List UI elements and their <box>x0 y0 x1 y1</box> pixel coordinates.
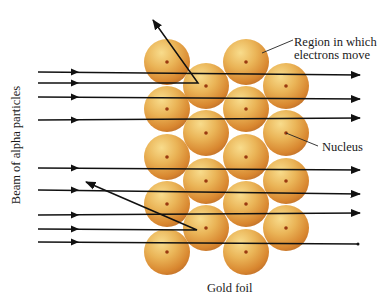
gold-atom <box>183 110 229 156</box>
nucleus-dot <box>165 202 169 206</box>
gold-atom <box>144 134 190 180</box>
nucleus-dot <box>204 179 208 183</box>
direction-arrow-icon <box>71 239 79 246</box>
alpha-path-pass <box>38 118 360 120</box>
nucleus-dot <box>204 226 208 230</box>
gold-atom <box>223 229 269 275</box>
gold-atom <box>183 63 229 109</box>
gold-atom <box>144 181 190 227</box>
direction-arrow-icon <box>71 212 79 219</box>
gold-atom <box>223 134 269 180</box>
gold-foil-label: Gold foil <box>207 282 252 295</box>
alpha-path-pass-end <box>38 242 358 244</box>
nucleus-label: Nucleus <box>322 141 363 154</box>
direction-arrow-icon <box>71 94 79 101</box>
gold-atom <box>183 205 229 251</box>
region-label-line2: electrons move <box>294 49 377 62</box>
nucleus-dot <box>165 107 169 111</box>
alpha-path-pass <box>38 213 360 215</box>
nucleus-dot <box>165 250 169 254</box>
direction-arrow-icon <box>71 187 79 194</box>
direction-arrow-icon <box>71 226 79 233</box>
nucleus-dot <box>244 107 248 111</box>
nucleus-dot <box>204 131 208 135</box>
nucleus-dot <box>244 155 248 159</box>
nucleus-dot <box>244 250 248 254</box>
direction-arrow-icon <box>71 165 79 172</box>
alpha-path-pass <box>38 97 360 99</box>
region-leader <box>262 40 293 53</box>
nucleus-dot <box>204 84 208 88</box>
gold-atom <box>263 158 309 204</box>
direction-arrow-icon <box>71 80 79 87</box>
direction-arrow-icon <box>71 117 79 124</box>
gold-atom <box>263 63 309 109</box>
nucleus-dot <box>244 202 248 206</box>
gold-atom <box>144 86 190 132</box>
nucleus-dot <box>284 179 288 183</box>
nucleus-dot <box>284 226 288 230</box>
alpha-path-pass <box>38 168 360 170</box>
gold-atom <box>223 181 269 227</box>
path-end-dot <box>357 243 360 246</box>
gold-atom <box>144 229 190 275</box>
beam-label: Beam of alpha particles <box>10 86 23 204</box>
nucleus-dot <box>244 60 248 64</box>
gold-atom <box>223 39 269 85</box>
nucleus-dot <box>165 155 169 159</box>
direction-arrow-icon <box>71 69 79 76</box>
gold-atom <box>183 158 229 204</box>
nucleus-dot <box>165 60 169 64</box>
nucleus-dot <box>284 84 288 88</box>
gold-atom <box>223 86 269 132</box>
region-label: Region in which electrons move <box>294 36 377 62</box>
